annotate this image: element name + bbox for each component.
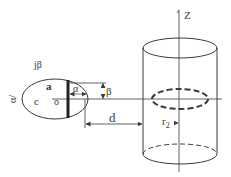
alpha-label: α bbox=[73, 83, 79, 94]
diagram-canvas: Z β d r2 jβ a c o α α/ bbox=[0, 0, 231, 177]
beta-label: β bbox=[106, 85, 112, 97]
cylinder-bottom-back-dashed bbox=[143, 144, 217, 154]
r2-subscript: 2 bbox=[166, 121, 170, 130]
d-label: d bbox=[109, 110, 116, 125]
j-beta-label: jβ bbox=[33, 59, 42, 70]
z-axis-label: Z bbox=[184, 9, 191, 21]
cylinder-bottom-front bbox=[143, 154, 217, 164]
o-label: o bbox=[54, 96, 59, 107]
r2-label: r2 bbox=[162, 115, 170, 130]
alpha-prime-label: α/ bbox=[7, 95, 18, 103]
a-label: a bbox=[46, 80, 52, 92]
cylinder-top-ellipse bbox=[143, 38, 217, 58]
cylinder bbox=[143, 38, 217, 164]
c-label: c bbox=[34, 95, 39, 107]
